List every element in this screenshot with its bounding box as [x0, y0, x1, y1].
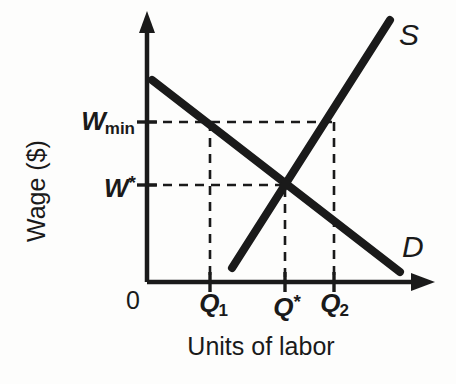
- x-tick-label-qstar-superscript: *: [293, 291, 300, 312]
- supply-curve-label: S: [399, 20, 419, 50]
- supply-curve: [232, 20, 390, 268]
- y-axis-arrowhead: [139, 11, 155, 33]
- x-tick-label-q1-base: Q: [199, 288, 219, 318]
- x-axis-title: Units of labor: [168, 334, 354, 359]
- y-tick-label-wstar: W*: [56, 171, 136, 201]
- supply-demand-minimum-wage-figure: Wage ($) Units of labor 0 Wmin W* Q1 Q* …: [0, 0, 456, 384]
- y-axis-title: Wage ($): [24, 91, 50, 291]
- x-axis-arrowhead: [411, 273, 435, 291]
- x-tick-label-qstar-base: Q: [273, 292, 293, 322]
- x-tick-label-q1-subscript: 1: [218, 301, 227, 320]
- demand-curve: [152, 80, 400, 272]
- y-tick-label-wstar-superscript: *: [129, 172, 136, 193]
- axis-group: [139, 11, 435, 291]
- x-tick-label-q2-base: Q: [320, 288, 340, 318]
- demand-curve-label: D: [402, 232, 424, 262]
- origin-label: 0: [118, 288, 148, 313]
- y-tick-label-wmin-subscript: min: [105, 119, 135, 138]
- x-tick-label-q2: Q2: [307, 290, 363, 316]
- y-tick-label-wstar-base: W: [104, 173, 129, 203]
- y-tick-label-wmin: Wmin: [56, 108, 136, 134]
- x-tick-label-q1: Q1: [186, 290, 242, 316]
- y-tick-label-wmin-base: W: [81, 106, 106, 136]
- x-tick-label-q2-subscript: 2: [339, 301, 348, 320]
